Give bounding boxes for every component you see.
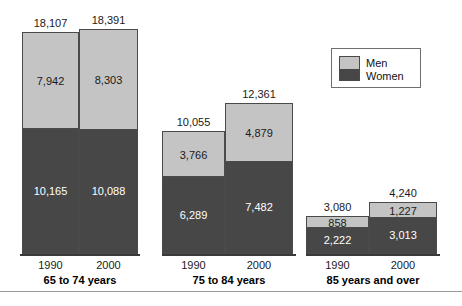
bar-segment-women[interactable]: 10,088 [80, 129, 137, 253]
bar-group-65-to-74: 7,942 10,165 18,107 8,303 10,088 18,391 [20, 22, 140, 254]
bar-segment-men[interactable]: 3,766 [163, 132, 224, 178]
bar-segment-women[interactable]: 7,482 [226, 161, 292, 253]
bar-total-65-to-74-2000: 18,391 [79, 15, 138, 26]
axis-year-85-and-over-2000: 2000 [369, 259, 437, 271]
bar-segment-women[interactable]: 10,165 [23, 128, 78, 253]
bar-segment-women[interactable]: 3,013 [370, 217, 436, 253]
bar-85-and-over-2000[interactable]: 1,227 3,013 [369, 202, 437, 254]
bar-value-men: 1,227 [389, 206, 417, 217]
legend-swatch-men-icon [340, 57, 359, 69]
legend-label-women: Women [366, 70, 404, 82]
axis-group-label-65-to-74: 65 to 74 years [20, 274, 140, 286]
bar-total-65-to-74-1990: 18,107 [22, 18, 79, 29]
stacked-bar-chart: 7,942 10,165 18,107 8,303 10,088 18,391 [0, 0, 462, 306]
bar-value-men: 8,303 [95, 75, 123, 86]
bar-total-75-to-84-1990: 10,055 [162, 117, 225, 128]
axis-labels: 1990 2000 65 to 74 years 1990 2000 75 to… [0, 256, 462, 292]
bar-value-women: 7,482 [245, 202, 273, 213]
bar-total-85-and-over-2000: 4,240 [369, 188, 437, 199]
bar-85-and-over-1990[interactable]: 858 2,222 [306, 216, 369, 254]
axis-year-75-to-84-2000: 2000 [225, 259, 293, 271]
bar-value-women: 6,289 [180, 210, 208, 221]
bar-value-men: 4,879 [245, 128, 273, 139]
bar-segment-women[interactable]: 2,222 [307, 227, 368, 253]
legend: Men Women [331, 48, 421, 88]
bar-value-men: 3,766 [180, 150, 208, 161]
bar-group-75-to-84: 3,766 6,289 10,055 4,879 7,482 12,361 [162, 22, 296, 254]
bar-65-to-74-1990[interactable]: 7,942 10,165 [22, 32, 79, 254]
bar-65-to-74-2000[interactable]: 8,303 10,088 [79, 29, 138, 254]
bar-segment-men[interactable]: 4,879 [226, 104, 292, 163]
axis-group-label-85-and-over: 85 years and over [306, 274, 440, 286]
legend-swatch-women-icon [340, 69, 359, 81]
bar-value-men: 7,942 [37, 76, 65, 87]
axis-year-65-to-74-1990: 1990 [22, 259, 79, 271]
bar-total-85-and-over-1990: 3,080 [306, 202, 369, 213]
bar-value-women: 10,165 [34, 186, 68, 197]
bar-75-to-84-1990[interactable]: 3,766 6,289 [162, 131, 225, 254]
bar-segment-women[interactable]: 6,289 [163, 176, 224, 253]
footer-divider [0, 291, 462, 292]
bar-total-75-to-84-2000: 12,361 [225, 89, 293, 100]
bar-value-women: 3,013 [389, 230, 417, 241]
legend-label-men: Men [366, 57, 387, 69]
axis-year-65-to-74-2000: 2000 [79, 259, 138, 271]
bar-value-women: 10,088 [92, 186, 126, 197]
bar-value-women: 2,222 [324, 235, 352, 246]
axis-year-75-to-84-1990: 1990 [162, 259, 225, 271]
bar-75-to-84-2000[interactable]: 4,879 7,482 [225, 103, 293, 254]
plot-area: 7,942 10,165 18,107 8,303 10,088 18,391 [0, 0, 462, 256]
axis-group-label-75-to-84: 75 to 84 years [162, 274, 296, 286]
axis-year-85-and-over-1990: 1990 [306, 259, 369, 271]
bar-segment-men[interactable]: 8,303 [80, 30, 137, 131]
legend-swatch [339, 56, 360, 81]
bar-segment-men[interactable]: 7,942 [23, 33, 78, 130]
